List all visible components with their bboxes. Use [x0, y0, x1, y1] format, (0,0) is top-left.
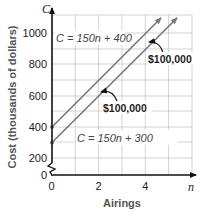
equation-label-bottom: C = 150n + 300 — [77, 132, 154, 144]
y-tick-600: 600 — [29, 90, 47, 102]
y-tick-1000: 1000 — [23, 27, 47, 39]
y-tick-400: 400 — [29, 121, 47, 133]
y-axis-title: Cost (thousands of dollars) — [6, 25, 18, 168]
x-tick-0: 0 — [48, 180, 54, 192]
x-tick-4: 4 — [142, 180, 148, 192]
y-tick-200: 200 — [29, 152, 47, 164]
x-axis-title: Airings — [103, 197, 141, 209]
equation-label-top: C = 150n + 400 — [56, 32, 133, 44]
callout-label-1: $100,000 — [103, 102, 147, 114]
y-axis-variable: C — [42, 2, 51, 16]
x-axis-variable: n — [188, 180, 194, 194]
y-tick-0: 0 — [41, 169, 47, 181]
axis-break-icon — [48, 163, 55, 175]
cost-chart: C n 1000 800 600 400 200 0 0 2 4 Airings… — [0, 0, 202, 220]
callout-label-2: $100,000 — [148, 53, 192, 65]
x-tick-2: 2 — [96, 180, 102, 192]
y-tick-800: 800 — [29, 58, 47, 70]
